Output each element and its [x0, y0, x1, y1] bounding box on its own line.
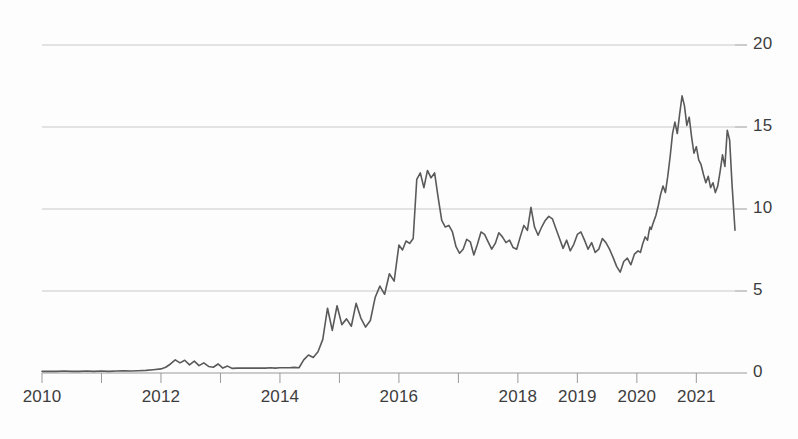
xtick-label-2016: 2016	[380, 387, 419, 407]
ytick-label-20: 20	[753, 34, 772, 54]
y-axis-tick-leaders	[735, 45, 747, 373]
chart-plot-area	[0, 0, 798, 439]
xtick-label-2010: 2010	[23, 387, 62, 407]
ytick-label-15: 15	[753, 116, 772, 136]
xtick-label-2021: 2021	[677, 387, 716, 407]
ytick-label-0: 0	[753, 362, 763, 382]
xtick-label-2012: 2012	[142, 387, 181, 407]
ytick-label-10: 10	[753, 198, 772, 218]
xtick-label-2014: 2014	[261, 387, 300, 407]
gridlines	[42, 45, 735, 373]
ytick-label-5: 5	[753, 280, 763, 300]
price-line-series	[42, 96, 735, 372]
xtick-label-2019: 2019	[558, 387, 597, 407]
xtick-label-2018: 2018	[499, 387, 538, 407]
x-axis-ticks	[42, 373, 696, 383]
xtick-label-2020: 2020	[618, 387, 657, 407]
line-chart-container: 05101520 2010201220142016201820192020202…	[0, 0, 798, 439]
